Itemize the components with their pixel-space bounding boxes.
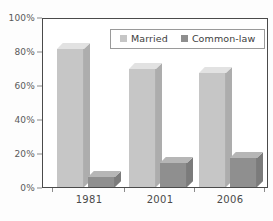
bar-side-face xyxy=(257,153,263,187)
bar-side-face xyxy=(187,158,193,187)
plot-area: Married Common-law xyxy=(42,18,268,188)
y-tick-label: 0% xyxy=(20,183,35,193)
bar-married-1981[interactable] xyxy=(57,49,84,187)
x-tick-label: 1981 xyxy=(76,194,103,205)
bar-married-2006[interactable] xyxy=(199,73,226,187)
bar-married-2001[interactable] xyxy=(129,69,156,187)
y-tick-label: 20% xyxy=(14,149,35,159)
legend-swatch-icon xyxy=(181,35,188,42)
x-tick-label: 2001 xyxy=(147,194,174,205)
bar-commonlaw-2001[interactable] xyxy=(160,163,187,187)
legend-entry-married[interactable]: Married xyxy=(120,33,168,44)
bar-front xyxy=(57,49,84,187)
bar-front xyxy=(230,158,257,187)
x-tick-mark xyxy=(124,188,125,192)
y-tick-label: 40% xyxy=(14,115,35,125)
y-tick-label: 100% xyxy=(8,13,35,23)
x-tick-mark xyxy=(194,188,195,192)
plot-inner: Married Common-law xyxy=(43,19,267,187)
y-axis: 100% 80% 60% 40% 20% 0% xyxy=(0,0,42,221)
legend-swatch-icon xyxy=(120,35,127,42)
y-tick-label: 80% xyxy=(14,47,35,57)
bar-front xyxy=(160,163,187,187)
bar-front xyxy=(129,69,156,187)
y-tick-label: 60% xyxy=(14,81,35,91)
legend-label: Married xyxy=(131,33,168,44)
bar-commonlaw-2006[interactable] xyxy=(230,158,257,187)
bar-side-face xyxy=(84,43,90,187)
bar-commonlaw-1981[interactable] xyxy=(88,177,115,187)
chart-legend: Married Common-law xyxy=(110,29,265,49)
bar-chart-figure: 100% 80% 60% 40% 20% 0% xyxy=(0,0,273,221)
legend-entry-commonlaw[interactable]: Common-law xyxy=(181,33,255,44)
bar-front xyxy=(88,177,115,187)
legend-label: Common-law xyxy=(192,33,255,44)
x-axis: 1981 2001 2006 xyxy=(42,188,268,218)
bar-front xyxy=(199,73,226,187)
x-tick-mark xyxy=(264,188,265,192)
x-tick-label: 2006 xyxy=(217,194,244,205)
x-tick-mark xyxy=(52,188,53,192)
